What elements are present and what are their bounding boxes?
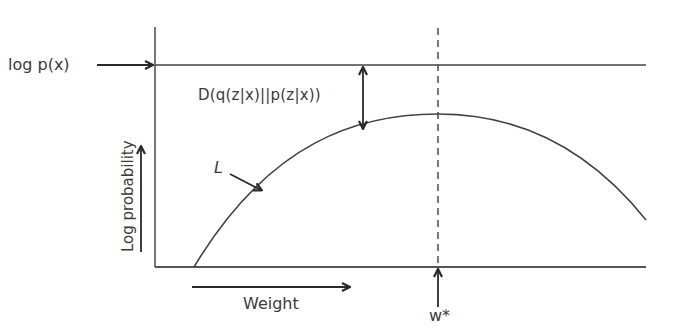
kl-divergence-label: D(q(z|x)||p(z|x)) bbox=[198, 86, 321, 104]
y-axis-label: Log probability bbox=[119, 140, 137, 252]
lower-bound-curve bbox=[194, 114, 646, 267]
lower-bound-pointer-arrow bbox=[230, 174, 261, 190]
optimum-weight-label: w* bbox=[429, 306, 450, 325]
log-px-label: log p(x) bbox=[8, 55, 70, 74]
diagram-canvas bbox=[0, 0, 677, 332]
lower-bound-label: L bbox=[214, 158, 223, 177]
x-axis-label: Weight bbox=[243, 294, 299, 313]
